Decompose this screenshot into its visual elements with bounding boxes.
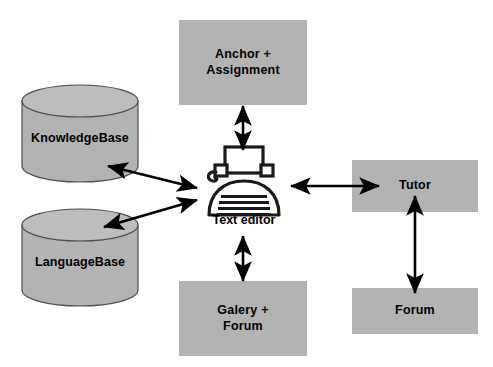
node-forum[interactable]: Forum: [352, 288, 478, 334]
node-galery-forum[interactable]: Galery + Forum: [179, 281, 307, 356]
node-languagebase-label: LanguageBase: [21, 255, 139, 269]
node-languagebase[interactable]: LanguageBase: [21, 208, 139, 307]
node-tutor[interactable]: Tutor: [352, 160, 478, 212]
node-knowledgebase-label: KnowledgeBase: [21, 131, 139, 145]
node-forum-label: Forum: [395, 303, 435, 319]
node-tutor-label: Tutor: [399, 178, 431, 194]
node-anchor-assignment[interactable]: Anchor + Assignment: [179, 20, 307, 105]
node-galery-forum-label: Galery + Forum: [217, 303, 268, 334]
diagram-canvas: KnowledgeBase LanguageBase Anchor + Assi…: [0, 0, 493, 367]
node-anchor-assignment-label: Anchor + Assignment: [206, 47, 280, 78]
node-text-editor-label: Text editor: [176, 213, 312, 227]
node-knowledgebase[interactable]: KnowledgeBase: [21, 84, 139, 183]
